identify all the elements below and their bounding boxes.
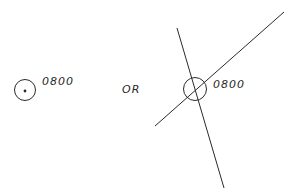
line-of-position-1 [177, 28, 224, 188]
or-separator: OR [122, 83, 140, 96]
right-time-label: 0800 [213, 78, 245, 91]
left-time-label: 0800 [42, 75, 74, 88]
line-of-position-2 [155, 12, 284, 126]
fix-dot [24, 90, 27, 93]
left-fix-symbol: 0800 [15, 75, 75, 101]
right-fix-symbol: 0800 [155, 12, 284, 188]
fix-symbol-diagram: 0800 OR 0800 [0, 0, 287, 196]
